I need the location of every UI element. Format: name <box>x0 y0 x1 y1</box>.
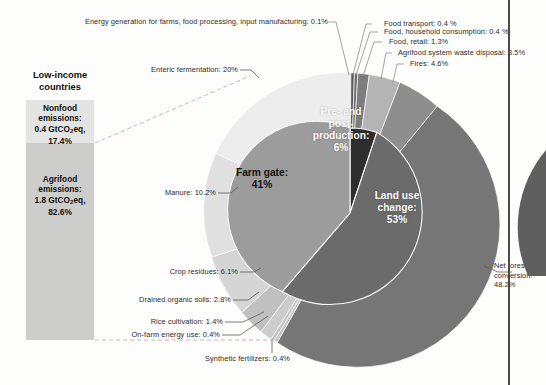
adjacent-figure-fragment <box>0 0 546 385</box>
adjacent-pie-fragment <box>518 150 546 276</box>
figure-canvas: Low-income countries Nonfood emissions: … <box>0 0 546 385</box>
